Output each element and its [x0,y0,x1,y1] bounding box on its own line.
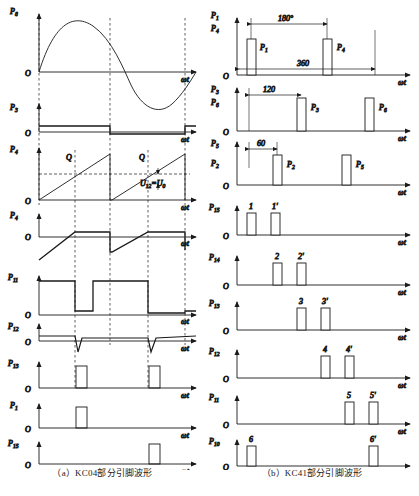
dim-label-180: 180° [278,14,294,23]
axis-label-p3: ωt [181,135,190,144]
origin-b-p14: O [223,282,229,291]
waveform-svg-kc04: P8 O ωt P3 O ωt P4 O ωt Q Q U12=U0 P4 O … [0,0,205,470]
row-label-b-p13: P13 [208,299,220,309]
row-b-p10 [237,440,410,466]
pulse-number-2: 2 [275,252,279,261]
axis-label-p4: ωt [181,203,190,212]
pulse-b-p12-2 [345,356,354,378]
pulse-number-2p: 2' [298,252,304,261]
pulse-number-3p: 3' [321,297,328,306]
row-b-p14 [237,256,410,285]
axis-label-p12: ωt [181,344,190,353]
annotation-q-second: Q [139,153,145,162]
pulse-p1 [247,39,256,75]
origin-b-p15: O [223,232,229,241]
row-label-p3-top: P3 [210,85,219,95]
axis-label-p8: ωt [181,75,190,84]
dimension-120 [249,88,301,131]
dim-label-360: 360 [296,59,309,68]
row-label-p1-top: P1 [210,11,219,21]
row-p4-clipped [39,214,196,260]
row-label-b-p10: P10 [208,437,220,447]
sine-curve-p8 [39,21,196,110]
pulse-number-6: 6 [249,435,253,444]
origin-p8: O [25,69,31,78]
origin-p1: O [25,425,31,434]
axis-label-b-p11: ωt [398,427,407,436]
row-label-p3: P3 [9,103,18,113]
row-label-b-p12: P12 [208,347,220,357]
pulse-p5 [342,155,351,185]
row-label-p4b: P4 [9,211,18,221]
row-label-p2-bot: P2 [210,159,219,169]
pulse-number-1: 1 [249,202,253,211]
pulse-b-p13-1 [297,308,306,330]
pulse-b-p15-2 [271,213,280,235]
pulse-number-1p: 1' [272,202,278,211]
axis-label-p1p4: ωt [398,78,407,87]
axis-label-b-p14: ωt [398,288,407,297]
row-label-p12: P12 [7,322,19,332]
clipped-ramp-p4b [39,232,185,260]
pulse-b-p14-2 [297,263,306,285]
row-label-p5-top: P5 [210,139,219,149]
dimension-360 [239,30,375,75]
square-wave-p3 [39,126,196,134]
pulse-b-p12-1 [321,356,330,378]
axis-label-b-p12: ωt [398,381,407,390]
pulse-b-p15-1 [247,213,256,235]
row-label-p13: P13 [7,359,19,369]
row-b-p15 [237,206,410,235]
pulse-p6 [365,98,374,131]
row-label-p15: P15 [7,439,19,449]
pulse-p13-2 [149,366,160,388]
negative-spikes-p12 [39,336,196,352]
row-p8 [39,14,196,110]
pulse-label-p1: P1 [259,43,268,53]
row-label-p1: P1 [9,401,18,411]
panel-kc41: P1 P4 O ωt 180° 360 P1 P4 P3 P6 O ωt 120… [205,0,419,470]
row-p1 [39,404,196,428]
row-p5-p2 [237,142,410,185]
pulse-label-p3: P3 [310,103,319,113]
pulse-number-4: 4 [323,345,327,354]
pulse-b-p13-2 [321,308,330,330]
origin-p3p6: O [223,128,229,137]
pulse-p3 [297,98,306,131]
axis-label-p13: ωt [181,391,190,400]
row-label-b-p11: P11 [208,393,219,403]
pulse-p1-1 [76,407,87,428]
pulse-b-p14-1 [273,263,282,285]
row-label-b-p14: P14 [208,253,220,263]
axis-label-b-p13: ωt [398,333,407,342]
svg-text:U12=U0: U12=U0 [140,179,165,189]
row-p4-ramp [39,148,196,200]
axis-label-p4b: ωt [181,239,190,248]
origin-p4b: O [25,233,31,242]
pulse-p2 [273,155,282,185]
row-label-p11: P11 [7,273,18,283]
origin-b-p12: O [223,375,229,384]
row-p12 [39,324,196,352]
pulse-label-p4: P4 [336,43,345,53]
origin-p3: O [25,129,31,138]
row-p15 [39,442,196,464]
sawtooth-p4 [39,154,185,200]
dim-label-120: 120 [263,85,275,94]
axis-label-p3p6: ωt [398,134,407,143]
pulse-number-4p: 4' [346,345,352,354]
square-notch-p11 [39,281,196,313]
row-label-p4-bot: P4 [210,24,219,34]
row-p13 [39,362,196,388]
pulse-p4 [323,39,332,75]
pulse-p15-1 [149,444,160,464]
row-b-p12 [237,350,410,378]
row-label-p4: P4 [9,145,18,155]
annotation-q-first: Q [66,153,72,162]
pulse-number-5: 5 [347,391,351,400]
pulse-label-p6: P6 [378,103,387,113]
origin-p4: O [25,197,31,206]
origin-p12: O [25,338,31,347]
pulse-b-p11-1 [345,402,354,424]
axis-label-p11: ωt [181,317,190,326]
